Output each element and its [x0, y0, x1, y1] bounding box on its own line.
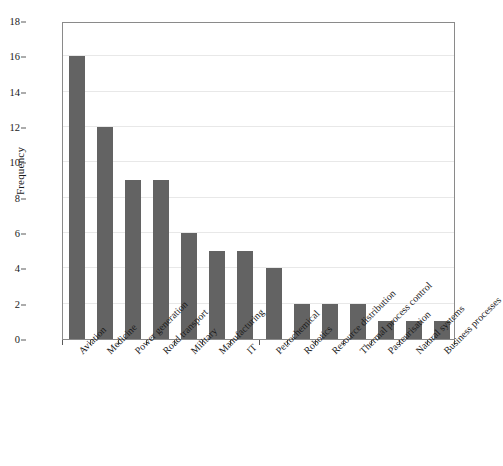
y-tick-label-18: 18 — [10, 17, 21, 28]
y-axis: Frequency 024681012141618 — [0, 0, 62, 342]
y-tick-mark-2 — [21, 304, 26, 305]
y-tick-label-16: 16 — [10, 52, 21, 63]
y-tick-mark-8 — [21, 198, 26, 199]
x-axis: AviationMedicinePower generationRoad tra… — [62, 340, 455, 466]
bar — [69, 56, 85, 339]
x-tick-label: IT — [245, 342, 259, 356]
y-tick-mark-6 — [21, 234, 26, 235]
bar-series — [63, 23, 454, 339]
y-tick-label-12: 12 — [10, 123, 21, 134]
y-tick-label-8: 8 — [15, 193, 20, 204]
y-tick-label-6: 6 — [15, 229, 20, 240]
y-tick-label-2: 2 — [15, 299, 20, 310]
x-tick-mark-7 — [259, 340, 260, 345]
bar — [125, 180, 141, 339]
y-tick-label-10: 10 — [10, 158, 21, 169]
bar — [266, 268, 282, 339]
y-tick-label-4: 4 — [15, 264, 20, 275]
bar — [97, 127, 113, 339]
y-tick-mark-4 — [21, 269, 26, 270]
y-tick-mark-18 — [21, 22, 26, 23]
y-tick-mark-16 — [21, 57, 26, 58]
plot-area — [62, 22, 455, 340]
y-tick-mark-14 — [21, 92, 26, 93]
y-tick-mark-0 — [21, 340, 26, 341]
y-tick-mark-10 — [21, 163, 26, 164]
y-tick-label-0: 0 — [15, 335, 20, 346]
y-tick-mark-12 — [21, 128, 26, 129]
y-axis-title: Frequency — [14, 147, 26, 195]
y-tick-label-14: 14 — [10, 87, 21, 98]
x-tick-mark-0 — [62, 340, 63, 345]
